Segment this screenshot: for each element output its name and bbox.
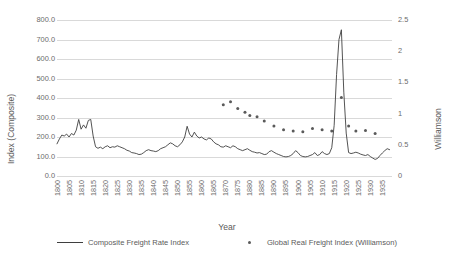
y-axis-right-tick-label: 0.5	[398, 141, 408, 148]
scatter-point	[236, 107, 239, 110]
x-axis-tick-label: 1925	[355, 180, 362, 196]
y-axis-right-tick-label: 2	[398, 47, 402, 54]
scatter-point	[222, 103, 225, 106]
scatter-point	[272, 125, 275, 128]
x-axis-tick-label: 1835	[138, 180, 145, 196]
x-axis-tick-label: 1825	[114, 180, 121, 196]
legend-item-composite: Composite Freight Rate Index	[57, 238, 189, 247]
y-axis-left-tick-label: 300.0	[37, 114, 56, 121]
scatter-point	[248, 114, 251, 117]
x-axis-tick-label: 1870	[222, 180, 229, 196]
series-layer	[57, 20, 392, 176]
x-axis-tick-label: 1880	[246, 180, 253, 196]
scatter-point	[282, 128, 285, 131]
scatter-point	[340, 96, 343, 99]
x-axis-tick-label: 1810	[78, 180, 85, 196]
y-axis-right-tick-label: 1.5	[398, 78, 408, 85]
y-axis-left-tick-label: 600.0	[37, 55, 56, 62]
x-axis-tick-label: 1820	[102, 180, 109, 196]
x-axis-tick-label: 1900	[295, 180, 302, 196]
scatter-point	[229, 100, 232, 103]
scatter-point	[354, 130, 357, 133]
x-axis-tick-label: 1905	[307, 180, 314, 196]
scatter-point	[292, 130, 295, 133]
y-axis-left-tick-label: 0.0	[45, 172, 55, 179]
x-axis-tick-label: 1875	[234, 180, 241, 196]
y-axis-left-tick-label: 800.0	[37, 16, 56, 23]
scatter-global-real-freight-index	[222, 96, 377, 135]
y-axis-left-tick-label: 200.0	[37, 133, 56, 140]
x-axis-tick-label: 1860	[198, 180, 205, 196]
y-axis-left-tick-label: 700.0	[37, 36, 56, 43]
freight-rate-index-chart: 0.0100.0200.0300.0400.0500.0600.0700.080…	[0, 0, 454, 257]
scatter-point	[364, 129, 367, 132]
y-axis-left-tick-label: 400.0	[37, 94, 56, 101]
y-axis-right-tick-label: 2.5	[398, 16, 408, 23]
x-axis-tick-label: 1865	[210, 180, 217, 196]
x-axis-title: Year	[0, 222, 454, 232]
x-axis-tick-label: 1840	[150, 180, 157, 196]
y-axis-left-tick-label: 100.0	[37, 153, 56, 160]
line-composite-freight-rate-index	[57, 30, 390, 160]
x-axis-tick-label: 1890	[270, 180, 277, 196]
scatter-point	[347, 125, 350, 128]
x-axis-tick-label: 1895	[282, 180, 289, 196]
scatter-point	[311, 127, 314, 130]
scatter-point	[256, 115, 259, 118]
x-axis-tick-label: 1850	[174, 180, 181, 196]
legend-item-williamson: Global Real Freight Index (Williamson)	[237, 238, 397, 247]
x-axis-tick-label: 1805	[66, 180, 73, 196]
y-axis-right-tick-label: 0	[398, 172, 402, 179]
chart-legend: Composite Freight Rate Index Global Real…	[0, 238, 454, 247]
y-axis-left-title: Index (Composite)	[6, 84, 16, 174]
x-axis-tick-label: 1800	[54, 180, 61, 196]
legend-label-composite: Composite Freight Rate Index	[88, 238, 189, 247]
x-axis-tick-label: 1910	[319, 180, 326, 196]
scatter-point	[374, 132, 377, 135]
legend-line-icon	[57, 242, 83, 243]
x-axis-tick-label: 1920	[343, 180, 350, 196]
x-axis-tick-label: 1930	[367, 180, 374, 196]
gridline	[57, 176, 392, 177]
y-axis-right-tick-label: 1	[398, 110, 402, 117]
scatter-point	[321, 128, 324, 131]
scatter-point	[301, 130, 304, 133]
x-axis-tick-label: 1815	[90, 180, 97, 196]
legend-label-williamson: Global Real Freight Index (Williamson)	[267, 238, 397, 247]
scatter-point	[263, 120, 266, 123]
scatter-point	[330, 130, 333, 133]
legend-dot-icon	[248, 241, 251, 244]
y-axis-right-title: Williamson	[433, 85, 443, 173]
x-axis-tick-label: 1935	[379, 180, 386, 196]
x-axis-tick-label: 1845	[162, 180, 169, 196]
x-axis-tick-label: 1855	[186, 180, 193, 196]
x-axis-tick-label: 1830	[126, 180, 133, 196]
plot-area	[57, 20, 392, 176]
x-axis-tick-label: 1885	[258, 180, 265, 196]
scatter-point	[243, 111, 246, 114]
x-axis-tick-label: 1915	[331, 180, 338, 196]
y-axis-left-tick-label: 500.0	[37, 75, 56, 82]
